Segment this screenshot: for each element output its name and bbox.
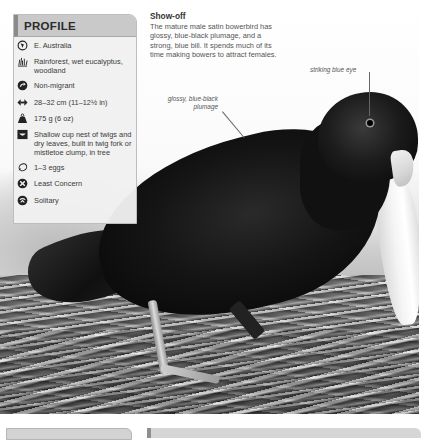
- description-title: Show-off: [150, 11, 280, 21]
- description-body: The mature male satin bowerbird has glos…: [150, 22, 280, 59]
- profile-item-weight: 175 g (6 oz): [17, 114, 136, 124]
- nest-icon: [17, 129, 28, 140]
- profile-item-text: 175 g (6 oz): [34, 114, 73, 123]
- wingspan-arrows-icon: [17, 97, 28, 108]
- weight-icon: [17, 113, 28, 124]
- profile-item-text: Rainforest, wet eucalyptus, woodland: [34, 57, 136, 75]
- next-profile-box-edge: [6, 428, 132, 440]
- profile-item-habitat: Rainforest, wet eucalyptus, woodland: [17, 57, 136, 75]
- profile-item-nest: Shallow cup nest of twigs and dry leaves…: [17, 130, 136, 157]
- conservation-status-icon: [17, 178, 28, 189]
- annotation-plumage: glossy, blue-black plumage: [156, 95, 218, 110]
- profile-title: PROFILE: [14, 15, 136, 37]
- profile-item-text: E. Australia: [34, 41, 71, 50]
- profile-item-text: Solitary: [34, 196, 59, 205]
- description-block: Show-off The mature male satin bowerbird…: [150, 11, 280, 59]
- globe-icon: [17, 40, 28, 51]
- social-behavior-icon: [17, 195, 28, 206]
- migration-arrow-icon: [17, 80, 28, 91]
- profile-item-text: 1–3 eggs: [34, 163, 64, 172]
- profile-list: E. Australia Rainforest, wet eucalyptus,…: [14, 37, 136, 206]
- egg-icon: [17, 162, 28, 173]
- next-panel-header-edge: [147, 428, 421, 438]
- profile-item-text: 28–32 cm (11–12½ in): [34, 98, 107, 107]
- profile-item-social: Solitary: [17, 196, 136, 206]
- profile-item-status: Least Concern: [17, 179, 136, 189]
- profile-item-text: Least Concern: [34, 179, 82, 188]
- profile-item-migration: Non-migrant: [17, 81, 136, 91]
- annotation-eye-leader-line: [369, 72, 370, 116]
- profile-item-text: Shallow cup nest of twigs and dry leaves…: [34, 130, 136, 157]
- profile-item-range: E. Australia: [17, 41, 136, 51]
- annotation-eye: striking blue eye: [310, 66, 356, 74]
- nest-twigs-foreground: [0, 330, 419, 414]
- profile-item-text: Non-migrant: [34, 81, 75, 90]
- bird-eye: [367, 120, 373, 126]
- habitat-grass-icon: [17, 56, 28, 67]
- profile-item-size: 28–32 cm (11–12½ in): [17, 98, 136, 108]
- profile-box: PROFILE E. Australia Rainforest, wet euc…: [13, 14, 137, 224]
- profile-item-eggs: 1–3 eggs: [17, 163, 136, 173]
